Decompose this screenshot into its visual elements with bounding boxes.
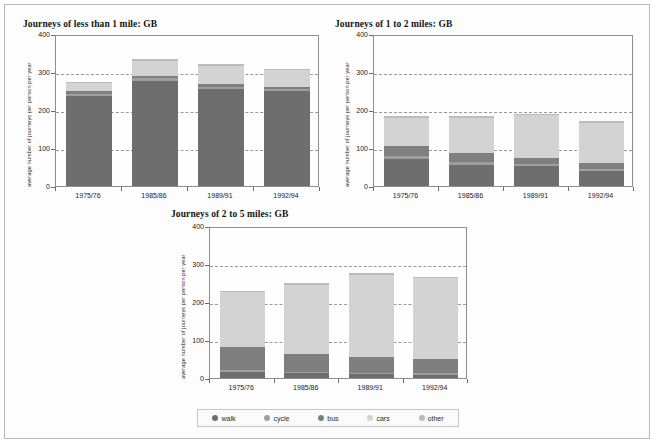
bar-segment-bus [264,87,310,89]
bar-1992-94 [264,69,310,186]
bar-segment-other [349,273,394,275]
bar-segment-cycle [449,162,495,165]
bar-segment-cars [66,83,112,90]
legend-item-other[interactable]: other [419,415,444,422]
bar-1992-94 [579,121,625,186]
bar-segment-bus [66,91,112,94]
y-tick-label: 100 [347,145,368,152]
y-tick-200 [369,111,373,112]
bar-segment-walk [449,165,495,186]
legend-label: cycle [273,415,289,422]
chart-panel-under-1-mile: Journeys of less than 1 mile: GB average… [23,19,323,209]
bar-segment-cars [264,70,310,87]
plot-area [373,35,633,187]
gridline-300 [374,74,632,75]
bar-segment-other [449,116,495,118]
y-tick-label: 300 [183,261,204,268]
legend-item-cycle[interactable]: cycle [264,415,289,422]
y-tick-300 [205,265,209,266]
x-tick-label: 1985/86 [132,192,176,199]
bar-1985-86 [284,283,329,378]
y-axis-title: average number of journeys per person pe… [180,254,186,379]
bar-segment-walk [413,375,458,378]
bar-segment-walk [349,374,394,378]
x-tick [633,187,634,191]
bar-segment-cars [349,275,394,357]
legend-swatch-icon [318,415,324,421]
x-tick-label: 1992/94 [264,192,308,199]
bar-1992-94 [413,277,458,378]
bar-segment-cycle [384,156,430,159]
bar-segment-walk [384,159,430,186]
x-tick-label: 1985/86 [284,384,328,391]
x-tick [403,379,404,383]
x-tick [187,187,188,191]
bar-1975-76 [66,82,112,186]
x-tick-label: 1975/76 [66,192,110,199]
bar-segment-walk [264,91,310,186]
bar-segment-bus [349,357,394,373]
x-tick-label: 1992/94 [579,192,623,199]
x-tick-label: 1989/91 [198,192,242,199]
y-tick-label: 200 [183,299,204,306]
y-tick-400 [205,227,209,228]
bar-segment-other [384,116,430,118]
bar-1989-91 [514,114,560,186]
x-tick [438,187,439,191]
legend-item-bus[interactable]: bus [318,415,338,422]
bar-segment-other [198,64,244,66]
chart-panel-1-to-2-miles: Journeys of 1 to 2 miles: GB average num… [335,19,637,209]
x-tick-label: 1989/91 [348,384,392,391]
bar-segment-cars [514,115,560,157]
x-tick-label: 1985/86 [449,192,493,199]
bar-segment-other [413,277,458,279]
x-tick [338,379,339,383]
chart-title: Journeys of 1 to 2 miles: GB [335,19,637,29]
bar-segment-other [284,283,329,284]
y-axis-title: average number of journeys per person pe… [26,62,32,187]
bar-segment-bus [384,146,430,156]
bar-segment-cars [284,285,329,355]
bar-segment-bus [514,158,560,164]
bar-segment-bus [132,76,178,78]
plot-area-wrapper: 01002003004001975/761985/861989/911992/9… [209,227,467,379]
y-tick-300 [369,73,373,74]
y-tick-label: 300 [29,69,50,76]
y-tick-label: 400 [29,31,50,38]
plot-area [55,35,319,187]
gridline-300 [210,266,466,267]
bar-segment-cycle [132,78,178,80]
x-tick [55,187,56,191]
legend-swatch-icon [367,415,373,421]
bar-segment-walk [579,171,625,186]
chart-title: Journeys of 2 to 5 miles: GB [171,209,473,219]
legend-item-walk[interactable]: walk [212,415,235,422]
gridline-200 [374,112,632,113]
chart-title: Journeys of less than 1 mile: GB [23,19,323,29]
bar-segment-other [514,114,560,116]
legend-swatch-icon [419,415,425,421]
bar-segment-cycle [220,370,265,372]
y-tick-label: 0 [29,183,50,190]
y-tick-100 [51,149,55,150]
bar-segment-cars [220,292,265,347]
x-tick-label: 1989/91 [514,192,558,199]
bar-segment-cars [579,123,625,163]
y-tick-label: 100 [183,337,204,344]
x-tick [467,379,468,383]
bar-segment-walk [66,96,112,186]
bar-segment-other [220,291,265,292]
bar-segment-cars [413,278,458,359]
bar-segment-bus [284,354,329,372]
chart-panel-2-to-5-miles: Journeys of 2 to 5 miles: GB average num… [171,209,473,401]
figure-frame: Journeys of less than 1 mile: GB average… [4,4,650,439]
legend-item-cars[interactable]: cars [367,415,389,422]
bar-segment-cycle [413,373,458,374]
bar-segment-other [66,82,112,84]
x-tick-label: 1992/94 [413,384,457,391]
y-tick-label: 0 [183,375,204,382]
plot-area-wrapper: 01002003004001975/761985/861989/911992/9… [55,35,319,187]
y-tick-label: 400 [347,31,368,38]
bar-segment-cars [384,118,430,146]
bar-segment-walk [284,373,329,378]
